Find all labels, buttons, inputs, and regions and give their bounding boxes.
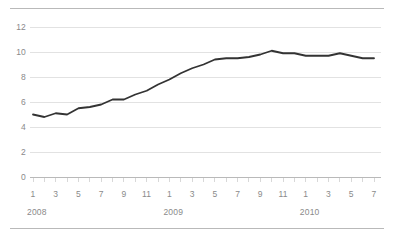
chart-figure: 024681012 135791113579111357 20082009201… (0, 0, 394, 238)
data-series-line (33, 51, 374, 117)
chart-svg (0, 0, 394, 238)
x-tick-label: 7 (366, 189, 382, 199)
y-tick-label: 6 (8, 97, 26, 107)
x-tick-label: 1 (161, 189, 177, 199)
x-tick-label: 1 (298, 189, 314, 199)
x-tick-label: 11 (275, 189, 291, 199)
x-tick-label: 11 (139, 189, 155, 199)
x-tick-label: 1 (25, 189, 41, 199)
year-label: 2009 (163, 207, 203, 217)
x-tick-label: 3 (321, 189, 337, 199)
y-tick-label: 0 (8, 172, 26, 182)
x-tick-label: 9 (116, 189, 132, 199)
y-tick-label: 8 (8, 72, 26, 82)
x-tick-label: 5 (207, 189, 223, 199)
y-gridlines (30, 27, 381, 177)
x-tick-label: 7 (93, 189, 109, 199)
year-label: 2010 (300, 207, 340, 217)
x-tick-label: 3 (184, 189, 200, 199)
year-label: 2008 (27, 207, 67, 217)
y-tick-label: 2 (8, 147, 26, 157)
x-tick-label: 9 (252, 189, 268, 199)
x-tick-label: 3 (48, 189, 64, 199)
line-chart-plot-area: 024681012 135791113579111357 20082009201… (0, 0, 394, 238)
x-tick-label: 7 (230, 189, 246, 199)
y-tick-label: 12 (8, 22, 26, 32)
x-axis-ticks (33, 178, 374, 182)
x-tick-label: 5 (70, 189, 86, 199)
y-tick-label: 10 (8, 47, 26, 57)
x-tick-label: 5 (343, 189, 359, 199)
y-tick-label: 4 (8, 122, 26, 132)
